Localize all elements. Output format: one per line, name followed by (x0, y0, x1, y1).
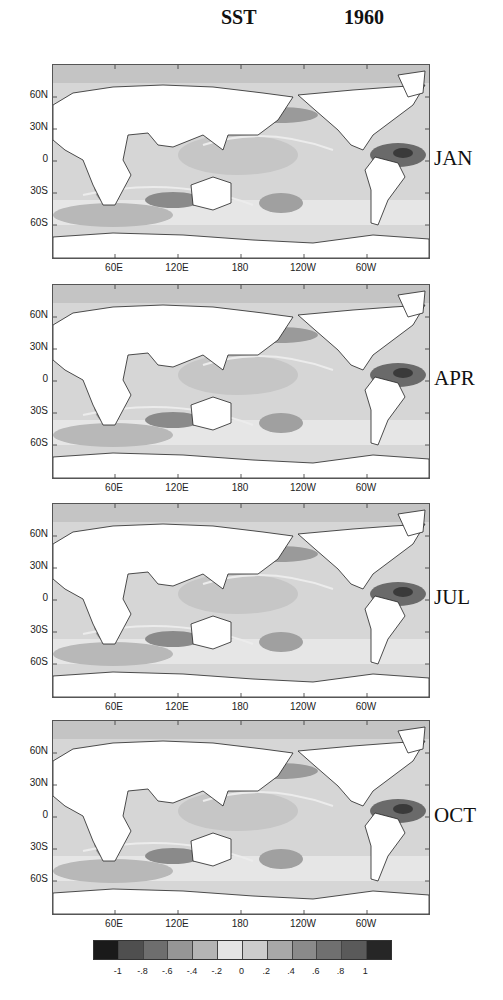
colorbar-segment (193, 941, 218, 959)
colorbar-tick-label: -1 (108, 966, 128, 976)
month-label-oct: OCT (434, 803, 476, 828)
colorbar-segment (94, 941, 119, 959)
month-label-jan: JAN (434, 146, 473, 171)
colorbar-segment (342, 941, 367, 959)
x-tick-120w: 120W (283, 918, 323, 929)
x-tick-120e: 120E (157, 701, 197, 712)
x-tick-60w: 60W (346, 482, 386, 493)
y-tick-30s: 30S (18, 185, 48, 196)
y-tick-30s: 30S (18, 405, 48, 416)
y-tick-0: 0 (18, 153, 48, 164)
colorbar-segment (268, 941, 293, 959)
x-tick-60e: 60E (94, 701, 134, 712)
sst-map-jan (53, 65, 429, 258)
x-tick-180: 180 (220, 918, 260, 929)
y-tick-30s: 30S (18, 841, 48, 852)
sst-map-oct (53, 721, 429, 914)
x-tick-180: 180 (220, 701, 260, 712)
x-tick-120w: 120W (283, 482, 323, 493)
colorbar-tick-label: .8 (331, 966, 351, 976)
y-tick-30n: 30N (18, 560, 48, 571)
colorbar-tick-label: .2 (256, 966, 276, 976)
month-label-apr: APR (434, 366, 475, 391)
colorbar (93, 940, 392, 960)
colorbar-segment (243, 941, 268, 959)
x-tick-60w: 60W (346, 262, 386, 273)
y-tick-60n: 60N (18, 89, 48, 100)
y-tick-60n: 60N (18, 528, 48, 539)
map-panel-jul (52, 503, 430, 698)
x-tick-60w: 60W (346, 701, 386, 712)
y-tick-30s: 30S (18, 624, 48, 635)
year-title: 1960 (344, 6, 384, 29)
map-panel-oct (52, 720, 430, 915)
colorbar-segment (317, 941, 342, 959)
x-tick-60e: 60E (94, 262, 134, 273)
x-tick-120e: 120E (157, 918, 197, 929)
x-tick-60e: 60E (94, 482, 134, 493)
sst-map-jul (53, 504, 429, 697)
y-tick-60n: 60N (18, 309, 48, 320)
colorbar-segment (144, 941, 169, 959)
y-tick-0: 0 (18, 809, 48, 820)
colorbar-tick-label: -.4 (182, 966, 202, 976)
x-tick-120e: 120E (157, 262, 197, 273)
month-label-jul: JUL (434, 585, 470, 610)
y-tick-0: 0 (18, 373, 48, 384)
y-tick-30n: 30N (18, 121, 48, 132)
x-tick-180: 180 (220, 262, 260, 273)
colorbar-tick-label: 0 (232, 966, 252, 976)
y-tick-60s: 60S (18, 873, 48, 884)
colorbar-tick-label: .4 (281, 966, 301, 976)
colorbar-tick-label: -.6 (157, 966, 177, 976)
colorbar-segment (293, 941, 318, 959)
x-tick-60e: 60E (94, 918, 134, 929)
x-tick-180: 180 (220, 482, 260, 493)
y-tick-60s: 60S (18, 437, 48, 448)
x-tick-120w: 120W (283, 262, 323, 273)
y-tick-30n: 30N (18, 341, 48, 352)
map-panel-apr (52, 284, 430, 479)
y-tick-30n: 30N (18, 777, 48, 788)
colorbar-tick-label: -.2 (207, 966, 227, 976)
sst-map-apr (53, 285, 429, 478)
colorbar-segment (168, 941, 193, 959)
variable-title: SST (221, 6, 257, 29)
colorbar-segment (119, 941, 144, 959)
colorbar-tick-label: 1 (355, 966, 375, 976)
colorbar-tick-label: -.8 (133, 966, 153, 976)
x-tick-120e: 120E (157, 482, 197, 493)
x-tick-60w: 60W (346, 918, 386, 929)
colorbar-tick-label: .6 (306, 966, 326, 976)
map-panel-jan (52, 64, 430, 259)
y-tick-60s: 60S (18, 656, 48, 667)
colorbar-segment (367, 941, 391, 959)
x-tick-120w: 120W (283, 701, 323, 712)
y-tick-60n: 60N (18, 745, 48, 756)
y-tick-0: 0 (18, 592, 48, 603)
colorbar-segment (218, 941, 243, 959)
y-tick-60s: 60S (18, 217, 48, 228)
